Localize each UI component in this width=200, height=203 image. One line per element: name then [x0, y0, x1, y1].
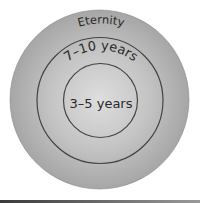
concentric-circles-diagram: Eternity 7–10 years 3–5 years — [0, 0, 200, 203]
bottom-rule — [0, 200, 200, 203]
ring-inner-label: 3–5 years — [70, 96, 133, 111]
